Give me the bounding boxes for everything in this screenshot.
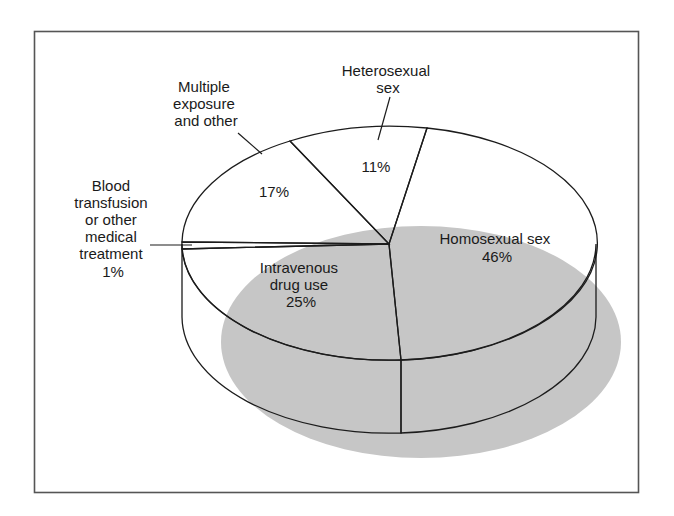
pct-multiple-exposure: 17%	[259, 183, 289, 200]
pct-heterosexual: 11%	[362, 158, 391, 175]
pie-chart: Heterosexual sex 11% Multiple exposure a…	[0, 0, 674, 516]
label-multiple-exposure: Multiple exposure and other	[173, 78, 239, 129]
